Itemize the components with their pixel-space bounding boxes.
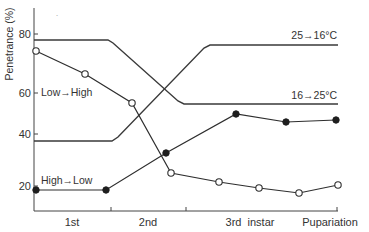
- scan-mark: ˎ: [56, 9, 58, 16]
- y-tick-80: 80: [19, 28, 31, 40]
- label-high-to-low: High→Low: [41, 174, 93, 186]
- y-tick-60: 60: [19, 87, 31, 99]
- x-ticks: [111, 207, 337, 211]
- label-16-to-25: 16→25°C: [291, 89, 337, 101]
- x-label-1st: 1st: [65, 216, 80, 228]
- y-ticks: [34, 34, 38, 186]
- x-label-pupariation: Pupariation: [302, 216, 358, 228]
- y-tick-40: 40: [19, 128, 31, 140]
- label-25-to-16: 25→16°C: [291, 29, 337, 41]
- penetrance-chart: Penetrance (%) 80 60 40 20 1st 2nd 3rd i…: [0, 0, 369, 232]
- x-label-2nd: 2nd: [139, 216, 157, 228]
- y-tick-20: 20: [19, 180, 31, 192]
- label-low-to-high: Low→High: [41, 86, 93, 98]
- y-axis-label: Penetrance (%): [3, 8, 15, 81]
- x-label-3rd-instar: 3rd instar: [226, 216, 275, 228]
